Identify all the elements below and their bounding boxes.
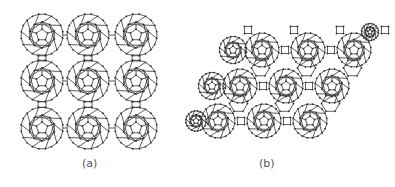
panel-a-lattice [20, 13, 157, 149]
panel-a-label: (a) [82, 157, 97, 170]
panel-b-lattice [185, 23, 389, 139]
fullerene-figure [0, 0, 395, 187]
panel-b-label: (b) [259, 157, 275, 170]
